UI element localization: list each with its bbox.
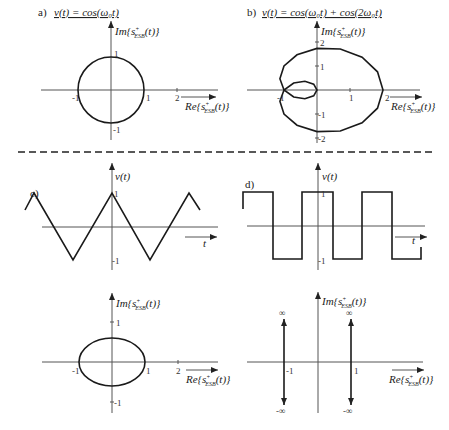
tick-y-2: 2 <box>320 38 325 48</box>
panel-b-label: b) <box>247 6 257 19</box>
panel-a-label: a) <box>38 6 47 19</box>
panel-d-label: d) <box>245 178 255 191</box>
panel-f: ∞ ∞ -∞ -∞ -1 1 Im{s+ESB(t)} Re{s+ESB(t)} <box>247 292 434 416</box>
tick-x-1: 1 <box>354 366 359 376</box>
figure: a) v(t) = cos(ω₀t) -1 1 2 1 -1 Im{s+ESB(… <box>0 0 449 430</box>
tick-y-1: 1 <box>114 189 119 199</box>
panel-e: -1 1 2 1 -1 Im{s+ESB(t)} Re{s+ESB(t)} <box>42 293 231 413</box>
tick-x-1: 1 <box>146 366 151 376</box>
tick-y-1: 1 <box>114 49 119 59</box>
tick-y-neg1: -1 <box>114 398 122 408</box>
t-axis-label: t <box>412 234 416 246</box>
y-axis-label: Im{s+ESB(t)} <box>320 25 366 39</box>
panel-d: d) v(t) t 1 -1 <box>243 163 427 270</box>
tick-x-2: 2 <box>175 93 180 103</box>
neg-inf-mark: -∞ <box>276 406 285 416</box>
x-axis-label: Re{s+ESB(t)} <box>390 100 436 114</box>
tick-x-1: 1 <box>146 93 151 103</box>
x-axis-label: Re{s+ESB(t)} <box>185 373 231 387</box>
x-axis-label: Re{s+ESB(t)} <box>388 373 434 387</box>
tick-x-neg1: -1 <box>72 366 80 376</box>
v-axis-label: v(t) <box>115 170 131 183</box>
inf-mark: ∞ <box>346 308 352 318</box>
y-axis-label: Im{s+ESB(t)} <box>321 295 367 309</box>
tick-x-2: 2 <box>176 366 181 376</box>
tick-y-1: 1 <box>321 189 326 199</box>
panel-a: a) v(t) = cos(ω₀t) -1 1 2 1 -1 Im{s+ESB(… <box>38 6 230 140</box>
tick-x-neg1: -1 <box>286 366 294 376</box>
tick-x-2: 2 <box>385 93 390 103</box>
x-axis-label: Re{s+ESB(t)} <box>184 100 230 114</box>
tick-y-neg1: -1 <box>318 256 326 266</box>
tick-y-neg2: -2 <box>318 134 326 144</box>
panel-b-title: v(t) = cos(ω₀t) + cos(2ω₀t) <box>262 6 382 19</box>
panel-b: b) v(t) = cos(ω₀t) + cos(2ω₀t) -1 1 2 2 … <box>247 6 436 144</box>
neg-inf-mark: -∞ <box>343 406 352 416</box>
y-axis-label: Im{s+ESB(t)} <box>114 25 160 39</box>
tick-y-neg1: -1 <box>112 256 120 266</box>
inf-mark: ∞ <box>279 308 285 318</box>
tick-y-neg1: -1 <box>113 125 121 135</box>
y-axis-label: Im{s+ESB(t)} <box>115 297 161 311</box>
tick-x-1: 1 <box>349 93 354 103</box>
tick-y-1: 1 <box>320 62 325 72</box>
t-axis-label: t <box>203 237 207 249</box>
v-axis-label: v(t) <box>322 170 338 183</box>
panel-a-title: v(t) = cos(ω₀t) <box>54 6 119 19</box>
tick-x-neg1: -1 <box>72 93 80 103</box>
panel-c: c) v(t) t 1 -1 <box>25 163 218 270</box>
tick-y-1: 1 <box>116 318 121 328</box>
tick-x-neg1: -1 <box>277 93 285 103</box>
tick-y-neg1: -1 <box>318 110 326 120</box>
